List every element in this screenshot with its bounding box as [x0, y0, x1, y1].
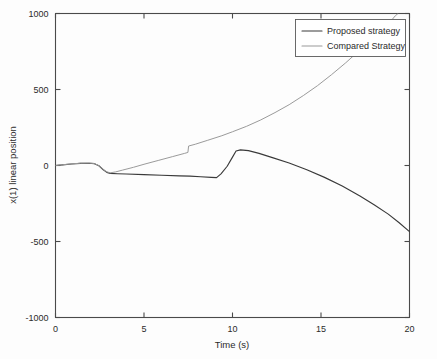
x-axis-title: Time (s)	[215, 339, 249, 350]
legend-label-compared-strategy: Compared Strategy	[327, 41, 406, 51]
plot-frame	[56, 14, 410, 318]
series-line-proposed-strategy	[56, 150, 410, 232]
y-tick-label: -500	[30, 237, 48, 247]
y-axis-tick-labels: -1000-50005001000	[25, 9, 48, 323]
figure-container: -1000-50005001000 05101520 Time (s) x(1)…	[0, 0, 437, 359]
x-tick-label: 0	[53, 324, 58, 334]
x-axis-ticks	[56, 14, 410, 318]
x-tick-label: 15	[316, 324, 326, 334]
legend-label-proposed-strategy: Proposed strategy	[327, 26, 401, 36]
y-tick-label: -1000	[25, 313, 48, 323]
y-tick-label: 0	[43, 161, 48, 171]
y-axis-ticks	[56, 14, 410, 318]
x-tick-label: 10	[227, 324, 237, 334]
chart-plot: -1000-50005001000 05101520 Time (s) x(1)…	[0, 0, 437, 359]
x-axis-tick-labels: 05101520	[53, 324, 415, 334]
chart-legend[interactable]: Proposed strategy Compared Strategy	[296, 20, 406, 57]
y-axis-title: x(1) linear position	[7, 126, 18, 204]
x-tick-label: 5	[141, 324, 146, 334]
x-tick-label: 20	[404, 324, 414, 334]
y-tick-label: 1000	[28, 9, 48, 19]
y-tick-label: 500	[33, 85, 48, 95]
